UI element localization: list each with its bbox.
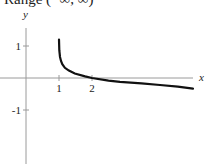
function-plot: 121-1 x y [0,0,212,164]
function-curve [59,40,193,89]
y-tick-label: -1 [12,104,21,116]
y-axis-label: y [22,8,28,20]
x-tick-label: 1 [56,82,62,94]
x-tick-label: 2 [89,82,95,94]
y-tick-label: 1 [16,40,22,52]
x-axis-label: x [198,71,204,83]
